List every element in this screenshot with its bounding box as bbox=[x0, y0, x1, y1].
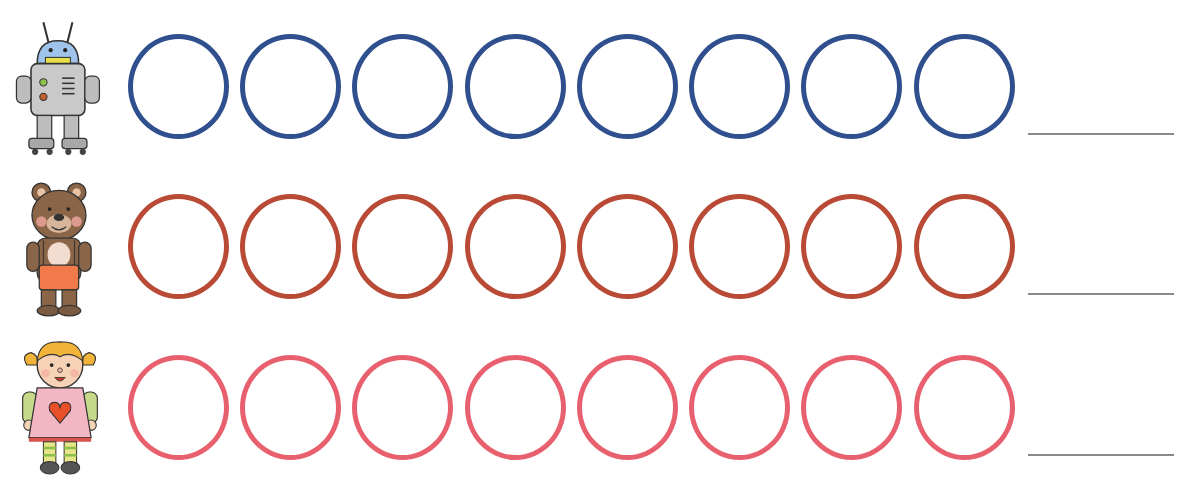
doll-icon bbox=[8, 336, 112, 476]
count-circle[interactable] bbox=[240, 194, 341, 299]
answer-line-doll[interactable] bbox=[1028, 454, 1174, 456]
count-circle[interactable] bbox=[352, 194, 453, 299]
count-circle[interactable] bbox=[577, 194, 678, 299]
count-circle[interactable] bbox=[801, 355, 902, 460]
count-circle[interactable] bbox=[465, 355, 566, 460]
count-circle[interactable] bbox=[240, 355, 341, 460]
count-circle[interactable] bbox=[801, 194, 902, 299]
count-circle[interactable] bbox=[914, 194, 1015, 299]
teddy-bear-icon bbox=[8, 180, 112, 320]
count-circle[interactable] bbox=[465, 194, 566, 299]
answer-line-teddy-bear[interactable] bbox=[1028, 293, 1174, 295]
count-circle[interactable] bbox=[128, 355, 229, 460]
count-circle[interactable] bbox=[352, 355, 453, 460]
count-circle[interactable] bbox=[128, 194, 229, 299]
row-doll bbox=[0, 0, 1180, 150]
count-circle[interactable] bbox=[689, 355, 790, 460]
count-circle[interactable] bbox=[689, 194, 790, 299]
count-circle[interactable] bbox=[577, 355, 678, 460]
count-circle[interactable] bbox=[914, 355, 1015, 460]
